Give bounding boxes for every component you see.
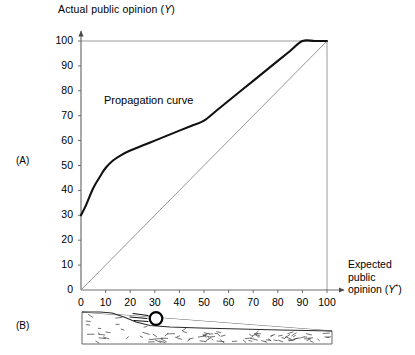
diagonal-reference-line — [81, 41, 327, 290]
figure-svg — [0, 0, 415, 355]
texture-dash — [323, 333, 329, 334]
rolling-ball-icon — [150, 312, 163, 325]
propagation-curve-line — [81, 40, 327, 215]
figure-container: Actual public opinion (Y) Expected publi… — [0, 0, 415, 355]
panel-b-diagram — [82, 312, 332, 344]
